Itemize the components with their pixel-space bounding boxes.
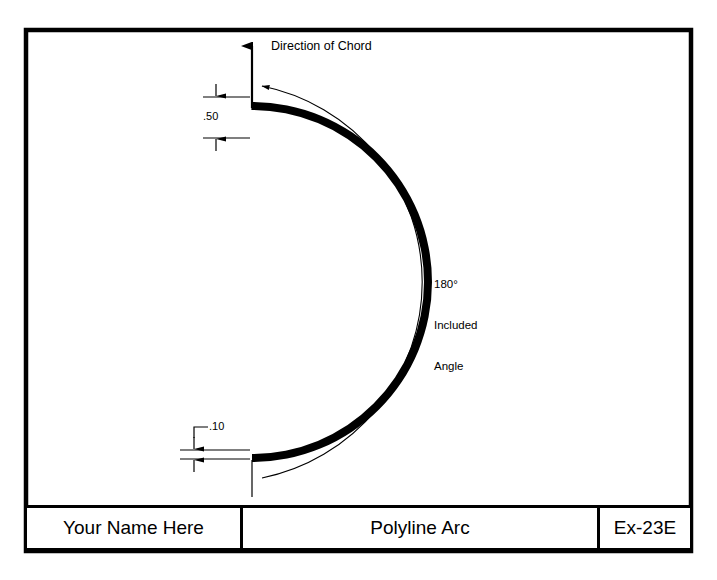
title-block-name-cell: Your Name Here	[27, 508, 243, 548]
included-angle-degrees: 180°	[434, 278, 477, 292]
title-block-drawing-title-cell: Polyline Arc	[243, 508, 600, 548]
sheet-border	[26, 30, 691, 551]
drawing-sheet: Direction of Chord .50 .10 180° Included…	[0, 0, 717, 580]
technical-drawing-canvas	[0, 0, 717, 580]
chord-direction-label: Direction of Chord	[271, 39, 372, 54]
included-angle-leader-arc	[262, 86, 422, 478]
included-angle-word-angle: Angle	[434, 360, 477, 374]
included-angle-label: 180° Included Angle	[434, 251, 477, 400]
title-block: Your Name Here Polyline Arc Ex-23E	[24, 505, 693, 551]
dim-010-leader	[194, 427, 208, 438]
tapered-polyline-arc	[252, 102, 432, 462]
dimension-050-label: .50	[203, 110, 218, 123]
included-angle-word-included: Included	[434, 319, 477, 333]
dimension-010-label: .10	[209, 420, 224, 433]
title-block-number-cell: Ex-23E	[600, 508, 690, 548]
